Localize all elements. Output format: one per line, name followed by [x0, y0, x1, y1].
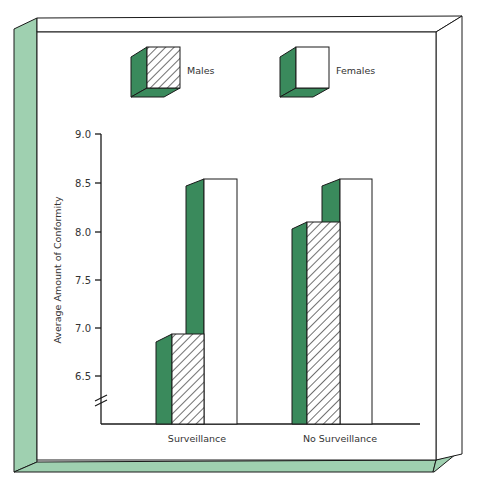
legend-females-label: Females — [336, 65, 375, 76]
y-tick-7-0: 7.0 — [75, 323, 91, 334]
bar-males-no-surveillance — [307, 222, 340, 424]
y-tick-8-0: 8.0 — [75, 227, 91, 238]
legend-females-swatch — [280, 47, 329, 97]
legend-males-label: Males — [187, 65, 215, 76]
bar-males-surveillance — [172, 334, 204, 424]
bar-males-side — [292, 222, 307, 424]
legend-males-swatch — [131, 47, 180, 97]
y-tick-8-5: 8.5 — [75, 178, 91, 189]
y-tick-9-0: 9.0 — [75, 129, 91, 140]
y-tick-7-5: 7.5 — [75, 275, 91, 286]
y-tick-6-5: 6.5 — [75, 371, 91, 382]
bar-males-side — [156, 334, 172, 424]
x-category-no-surveillance: No Surveillance — [303, 433, 377, 444]
bar-females-surveillance — [204, 179, 237, 424]
frame — [14, 16, 462, 472]
x-category-surveillance: Surveillance — [168, 433, 226, 444]
y-axis-label: Average Amount of Conformity — [52, 196, 63, 344]
chart-figure: Males Females 9.0 8.5 8.0 7.5 7.0 6.5 Av… — [0, 0, 478, 485]
bar-females-no-surveillance — [340, 179, 372, 424]
